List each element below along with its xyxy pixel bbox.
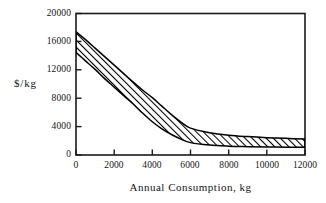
x-tick-label-12000: 12000: [285, 160, 325, 170]
y-axis-title: $/kg: [14, 77, 37, 89]
x-tick-label-8000: 8000: [209, 160, 249, 170]
y-tick-label-8000: 8000: [26, 93, 71, 103]
x-axis-title: Annual Consumption, kg: [76, 181, 305, 193]
chart-figure: 20000 16000 12000 8000 4000 0 0 2000 400…: [0, 0, 326, 203]
x-tick-label-4000: 4000: [132, 160, 172, 170]
y-tick-label-20000: 20000: [26, 8, 71, 18]
y-tick-label-16000: 16000: [26, 36, 71, 46]
y-tick-label-4000: 4000: [26, 121, 71, 131]
y-tick-label-0: 0: [26, 149, 71, 159]
x-tick-label-10000: 10000: [247, 160, 287, 170]
x-tick-label-2000: 2000: [94, 160, 134, 170]
y-tick-label-12000: 12000: [26, 64, 71, 74]
x-tick-label-0: 0: [56, 160, 96, 170]
x-tick-label-6000: 6000: [170, 160, 210, 170]
